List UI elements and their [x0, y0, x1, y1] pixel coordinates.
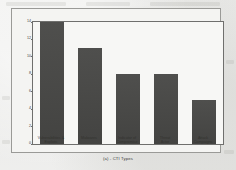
y-tick-label: 2	[22, 125, 31, 129]
bleed-line	[86, 2, 130, 6]
bleed-line	[150, 2, 220, 6]
bleed-line	[6, 2, 66, 6]
x-axis-label: Threat Actor	[146, 136, 184, 145]
figure-container: Number of Answers 02468101214 Vulnerabil…	[0, 0, 236, 170]
plot-frame: Number of Answers 02468101214	[32, 21, 224, 145]
bar	[78, 48, 102, 144]
bar	[116, 74, 140, 144]
chart-card: Number of Answers 02468101214 Vulnerabil…	[11, 8, 221, 153]
bleed-line	[2, 140, 10, 144]
x-axis-label: Vulnerabilities & Exploits	[32, 136, 70, 145]
y-tick-label: 4	[22, 107, 31, 111]
bar	[40, 22, 64, 144]
y-tick-label: 14	[22, 20, 31, 24]
y-tick-label: 12	[22, 37, 31, 41]
y-tick-label: 8	[22, 72, 31, 76]
y-tick-label: 6	[22, 90, 31, 94]
bleed-line	[2, 96, 10, 100]
x-axis-label: Indicator of Compromise	[108, 136, 146, 145]
plot-area: 02468101214	[33, 22, 223, 144]
bleed-line	[224, 150, 234, 154]
y-tick-label: 10	[22, 55, 31, 59]
x-axis-label: Malwares	[70, 136, 108, 140]
bleed-line	[226, 60, 234, 64]
x-axis-label: Attack Campaigns	[184, 136, 222, 145]
y-tick-label: 0	[22, 142, 31, 146]
figure-caption: (a) - CTI Types	[0, 156, 236, 161]
bar	[154, 74, 178, 144]
